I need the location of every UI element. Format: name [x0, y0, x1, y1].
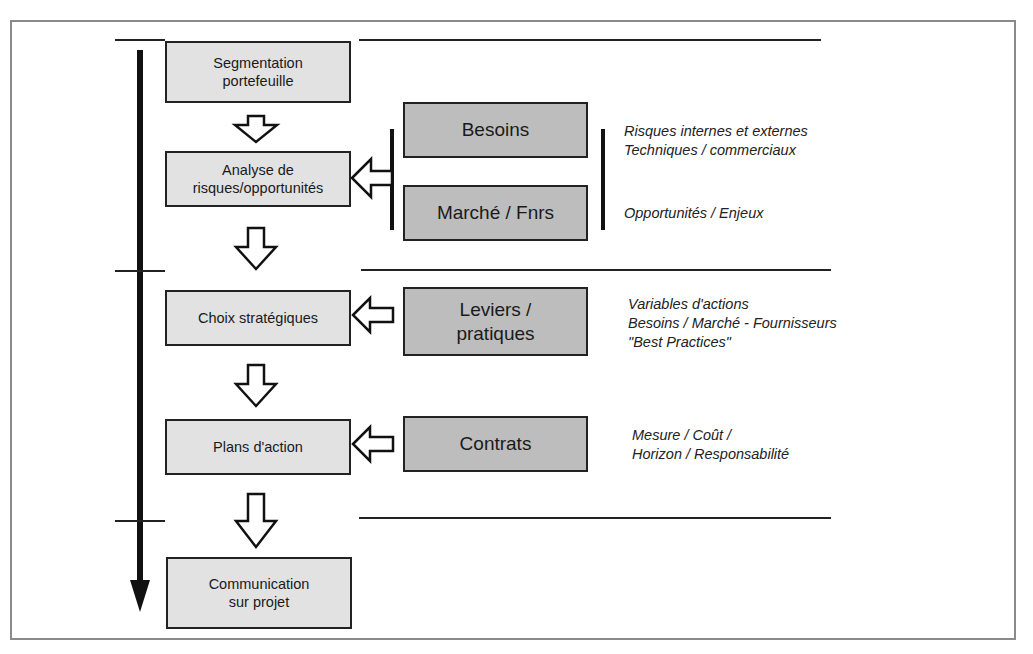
- hollow-arrow-down-icon: [231, 115, 281, 145]
- note-line: Techniques / commerciaux: [624, 141, 808, 160]
- hollow-arrow-left-icon: [350, 155, 395, 201]
- step-label: Analyse de risques/opportunités: [193, 161, 324, 197]
- phase-separator-right-1: [359, 39, 821, 41]
- hollow-arrow-left-icon: [351, 295, 396, 337]
- note-line: "Best Practices": [628, 333, 837, 352]
- phase-separator-right-2: [361, 269, 831, 271]
- input-label: Marché / Fnrs: [437, 201, 554, 225]
- note-line: Mesure / Coût /: [632, 426, 789, 445]
- phase-separator-left-3: [115, 520, 165, 522]
- step-label: Communication sur projet: [209, 575, 310, 611]
- input-label: Contrats: [460, 432, 532, 456]
- step-plans: Plans d'action: [165, 419, 351, 475]
- input-contrats: Contrats: [403, 416, 588, 472]
- note-line: Variables d'actions: [628, 295, 837, 314]
- input-leviers: Leviers / pratiques: [403, 287, 588, 356]
- note-line: Horizon / Responsabilité: [632, 445, 789, 464]
- phase-separator-left-2: [115, 270, 165, 272]
- input-label: Leviers / pratiques: [456, 298, 534, 346]
- step-communication: Communication sur projet: [166, 557, 352, 629]
- hollow-arrow-left-icon: [351, 424, 396, 466]
- step-label: Choix stratégiques: [198, 309, 318, 327]
- phase-separator-right-3: [359, 517, 831, 519]
- step-segmentation: Segmentation portefeuille: [165, 41, 351, 103]
- note-leviers: Variables d'actions Besoins / Marché - F…: [628, 295, 837, 352]
- note-bracket: [601, 129, 605, 230]
- input-besoins: Besoins: [403, 102, 588, 158]
- note-line: Opportunités / Enjeux: [624, 204, 763, 223]
- note-marche: Opportunités / Enjeux: [624, 204, 763, 223]
- note-besoins: Risques internes et externes Techniques …: [624, 122, 808, 160]
- hollow-arrow-down-icon: [231, 493, 281, 551]
- note-line: Risques internes et externes: [624, 122, 808, 141]
- hollow-arrow-down-icon: [231, 364, 281, 409]
- note-contrats: Mesure / Coût / Horizon / Responsabilité: [632, 426, 789, 464]
- note-line: Besoins / Marché - Fournisseurs: [628, 314, 837, 333]
- phase-separator-left-1: [115, 39, 165, 41]
- hollow-arrow-down-icon: [231, 227, 281, 272]
- step-analyse: Analyse de risques/opportunités: [165, 151, 351, 207]
- step-label: Plans d'action: [213, 438, 303, 456]
- input-label: Besoins: [462, 118, 530, 142]
- step-label: Segmentation portefeuille: [213, 54, 302, 90]
- input-marche: Marché / Fnrs: [403, 185, 588, 241]
- arrow-down-icon: [130, 50, 150, 615]
- step-choix: Choix stratégiques: [165, 290, 351, 346]
